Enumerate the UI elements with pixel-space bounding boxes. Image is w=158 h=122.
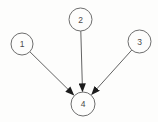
node-1-label: 1 [20, 39, 25, 49]
graph-diagram: 1 2 3 4 [0, 0, 158, 122]
edge-1-to-4 [30, 52, 74, 95]
graph-canvas: 1 2 3 4 [0, 0, 158, 122]
node-1: 1 [11, 33, 33, 55]
node-3: 3 [128, 30, 151, 53]
node-4-label: 4 [81, 99, 86, 109]
edge-2-to-4 [81, 31, 83, 91]
node-2: 2 [69, 8, 92, 31]
node-4: 4 [71, 92, 95, 116]
edge-3-to-4 [92, 50, 132, 94]
node-3-label: 3 [137, 37, 142, 47]
node-2-label: 2 [78, 15, 83, 25]
edges [30, 31, 132, 95]
